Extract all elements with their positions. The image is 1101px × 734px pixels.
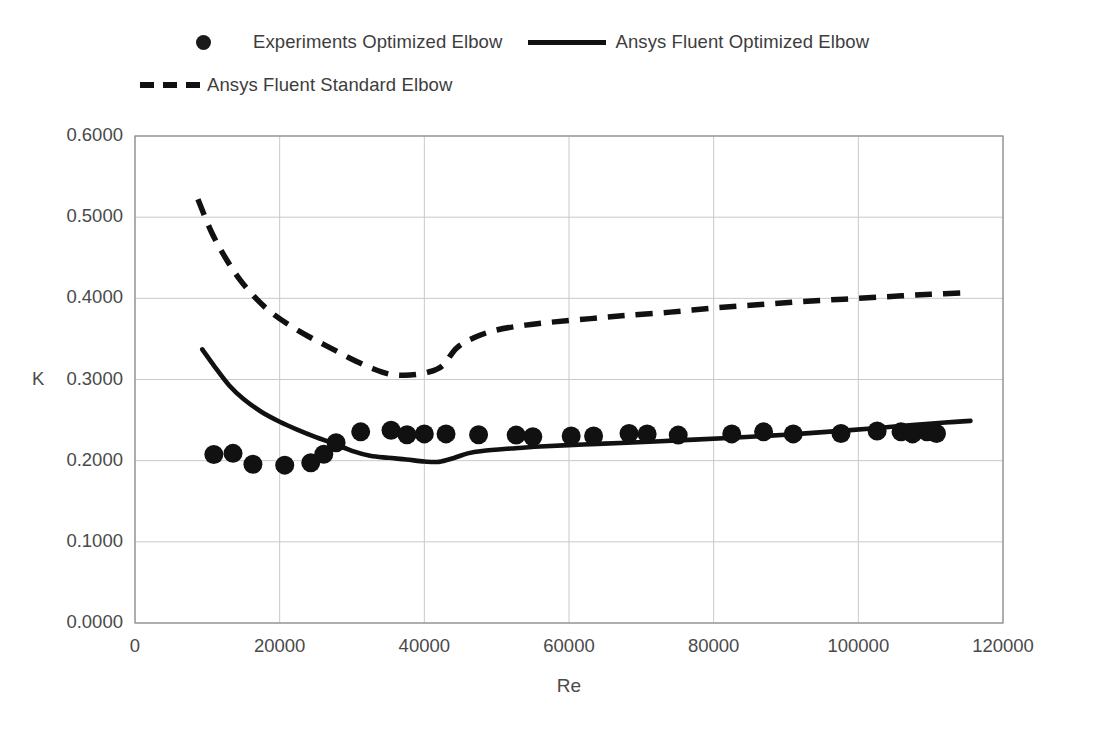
data-series [198,199,971,474]
x-tick-label: 80000 [654,635,774,657]
x-tick-label: 100000 [798,635,918,657]
chart-figure: Experiments Optimized Elbow Ansys Fluent… [0,0,1101,734]
x-tick-label: 20000 [220,635,340,657]
plot-canvas [0,0,1101,734]
x-tick-label: 0 [75,635,195,657]
y-tick-label: 0.0000 [5,611,123,633]
x-tick-label: 40000 [364,635,484,657]
x-axis-title: Re [519,675,619,697]
x-tick-label: 60000 [509,635,629,657]
y-tick-label: 0.5000 [5,205,123,227]
y-tick-label: 0.2000 [5,449,123,471]
grid-lines [135,136,1003,623]
y-axis-title: K [32,368,44,390]
plot-area: 0.00000.10000.20000.30000.40000.50000.60… [0,0,1101,734]
y-tick-label: 0.4000 [5,286,123,308]
x-tick-label: 120000 [943,635,1063,657]
y-tick-label: 0.3000 [5,368,123,390]
y-tick-label: 0.6000 [5,124,123,146]
y-tick-label: 0.1000 [5,530,123,552]
